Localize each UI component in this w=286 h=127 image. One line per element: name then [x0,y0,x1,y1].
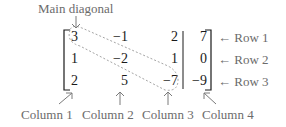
column-label-3: Column 3 [142,108,194,121]
column-2-arrow-icon [116,92,124,105]
left-arrow-icon: ← [218,74,231,89]
left-arrow-icon: ← [218,30,231,45]
matrix-entry-r3-c4: −9 [183,74,207,88]
column-label-4: Column 4 [202,108,254,121]
column-4-arrow-icon [204,93,216,104]
row-label-3: ← Row 3 [218,75,269,88]
column-label-1: Column 1 [21,108,73,121]
matrix-entry-r3-c1: 2 [54,74,78,88]
column-3-arrow-icon [164,92,172,105]
row-label-1: ← Row 1 [218,31,269,44]
matrix-entry-r2-c4: 0 [183,52,207,66]
main-diagonal-label: Main diagonal [38,2,113,15]
column-label-2: Column 2 [82,108,134,121]
left-arrow-icon: ← [218,52,231,67]
matrix-entry-r1-c3: 2 [154,30,178,44]
matrix-entry-r3-c2: 5 [104,74,128,88]
matrix-entry-r1-c4: 7 [183,30,207,44]
column-1-arrow-icon [59,93,72,104]
down-arrow-icon [72,16,80,28]
matrix-entry-r2-c3: 1 [154,52,178,66]
matrix-entry-r2-c2: −2 [104,52,128,66]
matrix-entry-r2-c1: 1 [54,52,78,66]
matrix-entry-r1-c2: −1 [104,30,128,44]
row-label-2: ← Row 2 [218,53,269,66]
matrix-entry-r1-c1: 3 [54,30,78,44]
matrix-entry-r3-c3: −7 [154,74,178,88]
